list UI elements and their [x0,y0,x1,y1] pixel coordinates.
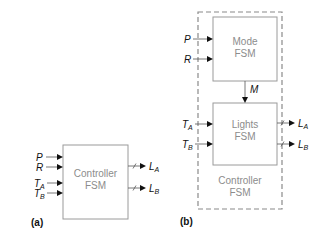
controller-fsm-label-line1: Controller [218,175,262,186]
lights-fsm-label-line2: FSM [234,131,255,142]
arrow-icon [140,185,146,191]
mode-fsm-label-line1: Mode [232,36,257,47]
input-r: R [184,54,213,65]
controller-fsm-label-line1: Controller [74,168,118,179]
arrow-icon [242,97,248,103]
panel-b-label: (b) [180,216,193,227]
input-tb: TB [34,188,63,200]
signal-m: M [242,81,259,103]
controller-fsm-label-line2: FSM [229,187,250,198]
output-label: LB [149,183,160,195]
controller-fsm-label-line2: FSM [85,180,106,191]
mode-fsm-label-line2: FSM [234,48,255,59]
arrow-icon [57,154,63,160]
arrow-icon [207,56,213,62]
input-label: R [36,162,43,173]
signal-m-label: M [250,84,259,95]
input-label: TB [182,139,193,151]
arrow-icon [289,141,295,147]
panel-a: Controller FSM P R TA TB LA [31,145,160,228]
arrow-icon [207,121,213,127]
input-label: R [184,54,191,65]
arrow-icon [57,180,63,186]
output-la: LA [128,161,160,173]
arrow-icon [57,164,63,170]
input-label: TA [182,119,193,131]
arrow-icon [140,163,146,169]
panel-a-label: (a) [31,217,43,228]
arrow-icon [207,36,213,42]
arrow-icon [57,190,63,196]
output-la: LA [277,118,309,130]
lights-fsm-label-line1: Lights [232,119,259,130]
panel-b: Mode FSM Lights FSM Controller FSM M P R… [180,12,309,227]
arrow-icon [207,141,213,147]
output-label: LA [149,161,160,173]
output-lb: LB [128,183,160,195]
fsm-diagram: Controller FSM P R TA TB LA [0,0,322,250]
output-label: LB [298,139,309,151]
arrow-icon [289,120,295,126]
input-label: P [184,34,191,45]
input-r: R [36,162,63,173]
output-label: LA [298,118,309,130]
